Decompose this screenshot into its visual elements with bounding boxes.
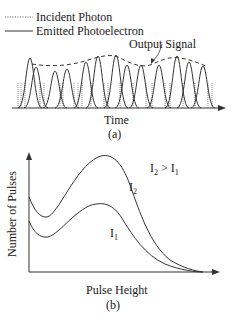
legend-incident-photon: Incident Photon — [36, 11, 112, 23]
figure-canvas — [0, 0, 232, 315]
caption-a: (a) — [108, 128, 121, 140]
legend-emitted-photoelectron: Emitted Photoelectron — [36, 25, 144, 37]
caption-b: (b) — [106, 299, 120, 311]
time-axis-label: Time — [104, 114, 129, 126]
y-axis-label: Number of Pulses — [6, 164, 18, 264]
photoelectron-pulses — [18, 55, 215, 108]
curve-i1-label: I1 — [110, 227, 118, 244]
relation-label: I2 > I1 — [150, 162, 179, 179]
curve-i2-label: I2 — [129, 181, 137, 198]
output-signal-label: Output Signal — [129, 38, 196, 50]
pulse-height-axis-label: Pulse Height — [86, 284, 148, 296]
